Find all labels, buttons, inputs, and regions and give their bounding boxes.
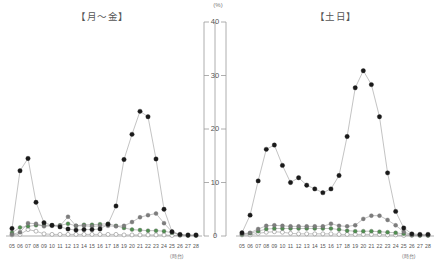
data-point (248, 213, 252, 217)
data-point (154, 157, 158, 161)
data-point (66, 232, 70, 236)
data-point (122, 224, 126, 228)
data-point (18, 230, 22, 234)
x-tick-label-right-18: 18 (344, 243, 350, 249)
data-point (377, 230, 381, 234)
data-point (385, 171, 389, 175)
data-point (114, 204, 118, 208)
x-tick-label-right-17: 17 (336, 243, 342, 249)
x-tick-label-right-05: 05 (239, 243, 245, 249)
data-point (186, 233, 190, 237)
data-point (289, 231, 293, 235)
x-tick-label-left-26: 26 (177, 243, 183, 249)
data-point (106, 222, 110, 226)
data-point (18, 225, 22, 229)
x-tick-label-right-26: 26 (409, 243, 415, 249)
x-tick-label-right-06: 06 (247, 243, 253, 249)
data-point (58, 232, 62, 236)
data-point (138, 233, 142, 237)
x-tick-label-right-12: 12 (296, 243, 302, 249)
data-point (369, 214, 373, 218)
data-point (26, 221, 30, 225)
data-point (154, 229, 158, 233)
data-point (393, 209, 397, 213)
x-tick-label-right-22: 22 (377, 243, 383, 249)
x-tick-label-left-10: 10 (49, 243, 55, 249)
data-point (410, 232, 414, 236)
x-tick-label-left-12: 12 (65, 243, 71, 249)
x-tick-label-right-24: 24 (393, 243, 399, 249)
series-markers-weekend-black-filled (240, 68, 430, 236)
data-point (114, 232, 118, 236)
data-point (170, 230, 174, 234)
data-point (280, 163, 284, 167)
data-point (345, 232, 349, 236)
data-point (418, 232, 422, 236)
x-tick-label-left-14: 14 (81, 243, 87, 249)
data-point (146, 115, 150, 119)
data-point (402, 226, 406, 230)
data-point (130, 233, 134, 237)
data-point (10, 226, 14, 230)
x-tick-label-left-23: 23 (153, 243, 159, 249)
data-point (313, 224, 317, 228)
data-point (337, 173, 341, 177)
data-point (280, 230, 284, 234)
chart-canvas: 0102030400506070809101112131415161718192… (0, 0, 439, 265)
data-point (106, 232, 110, 236)
x-tick-label-left-13: 13 (73, 243, 79, 249)
series-line-weekday-open-circle (12, 230, 196, 236)
data-point (377, 115, 381, 119)
y-tick-label-40: 40 (211, 17, 219, 26)
data-point (74, 228, 78, 232)
data-point (361, 217, 365, 221)
data-point (353, 86, 357, 90)
x-tick-label-right-15: 15 (320, 243, 326, 249)
x-tick-label-left-07: 07 (25, 243, 31, 249)
data-point (289, 224, 293, 228)
data-point (329, 227, 333, 231)
data-point (297, 232, 301, 236)
x-tick-label-right-16: 16 (328, 243, 334, 249)
data-point (178, 232, 182, 236)
x-tick-label-right-27: 27 (417, 243, 423, 249)
data-point (272, 223, 276, 227)
x-tick-label-left-17: 17 (105, 243, 111, 249)
data-point (386, 230, 390, 234)
data-point (154, 233, 158, 237)
x-tick-label-right-28: 28 (425, 243, 431, 249)
data-point (146, 213, 150, 217)
x-axis-unit-label-right: (時台) (402, 252, 415, 259)
x-tick-label-right-21: 21 (369, 243, 375, 249)
data-point (74, 232, 78, 236)
x-tick-label-left-20: 20 (129, 243, 135, 249)
data-point (26, 156, 30, 160)
x-tick-label-left-25: 25 (169, 243, 175, 249)
x-tick-label-left-08: 08 (33, 243, 39, 249)
x-tick-label-left-15: 15 (89, 243, 95, 249)
x-tick-label-left-27: 27 (185, 243, 191, 249)
data-point (122, 233, 126, 237)
series-line-weekend-black-filled (242, 71, 428, 235)
data-point (305, 183, 309, 187)
data-point (256, 227, 260, 231)
data-point (369, 229, 373, 233)
x-tick-label-left-09: 09 (41, 243, 47, 249)
x-tick-label-left-16: 16 (97, 243, 103, 249)
x-tick-label-left-19: 19 (121, 243, 127, 249)
x-tick-label-right-07: 07 (255, 243, 261, 249)
data-point (297, 224, 301, 228)
x-tick-label-right-20: 20 (360, 243, 366, 249)
data-point (321, 232, 325, 236)
data-point (337, 232, 341, 236)
data-point (264, 147, 268, 151)
data-point (329, 222, 333, 226)
data-point (369, 82, 373, 86)
series-line-weekday-black-filled (12, 111, 196, 235)
x-tick-label-left-24: 24 (161, 243, 167, 249)
series-markers-weekday-black-filled (10, 109, 198, 237)
data-point (98, 227, 102, 231)
y-tick-label-10: 10 (211, 178, 219, 187)
y-tick-label-20: 20 (211, 124, 219, 133)
x-tick-label-right-19: 19 (352, 243, 358, 249)
